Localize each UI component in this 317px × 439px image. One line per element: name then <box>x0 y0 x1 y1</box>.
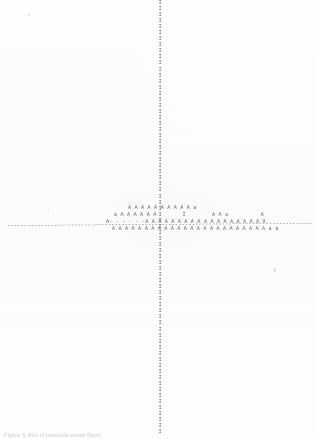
scan-speck-top-left <box>28 14 30 16</box>
data-row-1: A A A A A A A A A A a <box>128 205 197 211</box>
vertical-axis-glyph-column: I I I I I I I I I I I I I I I I I I I I … <box>154 0 166 436</box>
data-row-4: A A A A A A A A A A A A A A A A A A A A … <box>112 226 278 232</box>
scan-speck-upper-left <box>47 209 49 211</box>
page-footer-caption: Figure 3. Plot of residuals versus fitte… <box>4 430 184 439</box>
data-row-2: a A A A A A A I A A a A <box>114 212 264 218</box>
scan-speck-right-lower <box>273 268 276 272</box>
data-row-3: A- - - - - -A A A A A A A A A A A A A A … <box>106 219 266 225</box>
